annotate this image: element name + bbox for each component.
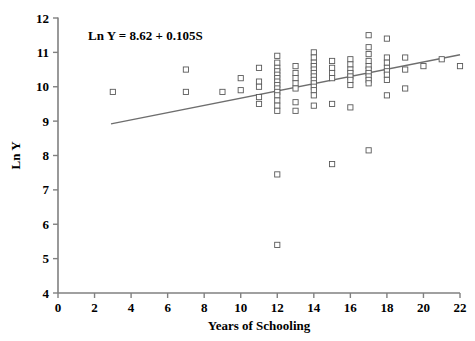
data-point-marker <box>366 81 371 86</box>
data-point-marker <box>256 79 261 84</box>
x-axis-title: Years of Schooling <box>208 318 311 333</box>
data-point-marker <box>384 77 389 82</box>
y-tick-label: 5 <box>43 251 50 266</box>
data-point-marker <box>384 60 389 65</box>
data-point-marker <box>348 62 353 67</box>
plot-canvas: 4567891011120246810121416182022Ln Y = 8.… <box>0 0 475 341</box>
data-point-marker <box>275 242 280 247</box>
data-point-marker <box>366 58 371 63</box>
data-point-marker <box>183 89 188 94</box>
data-point-marker <box>329 70 334 75</box>
x-tick-label: 0 <box>55 300 62 315</box>
data-point-marker <box>293 70 298 75</box>
data-point-marker <box>293 64 298 69</box>
y-axis-title: Ln Y <box>8 141 23 170</box>
data-point-marker <box>366 45 371 50</box>
data-point-marker <box>220 89 225 94</box>
x-axis-ticks: 0246810121416182022 <box>55 293 467 315</box>
data-point-marker <box>403 67 408 72</box>
data-point-marker <box>329 58 334 63</box>
data-point-marker <box>366 148 371 153</box>
data-point-marker <box>256 84 261 89</box>
data-point-marker <box>110 89 115 94</box>
y-tick-label: 6 <box>43 217 50 232</box>
x-tick-label: 12 <box>271 300 284 315</box>
data-point-marker <box>329 161 334 166</box>
y-tick-label: 4 <box>43 286 50 301</box>
data-point-marker <box>293 108 298 113</box>
regression-equation-annotation: Ln Y = 8.62 + 0.105S <box>88 28 203 43</box>
data-point-marker <box>275 103 280 108</box>
scatter-plot-figure: 4567891011120246810121416182022Ln Y = 8.… <box>0 0 475 341</box>
data-point-marker <box>311 55 316 60</box>
data-point-marker <box>384 55 389 60</box>
data-point-marker <box>238 88 243 93</box>
x-tick-label: 6 <box>164 300 171 315</box>
data-point-marker <box>384 36 389 41</box>
data-point-marker <box>183 67 188 72</box>
data-point-marker <box>275 93 280 98</box>
data-point-marker <box>293 100 298 105</box>
data-point-marker <box>384 93 389 98</box>
y-tick-label: 12 <box>36 11 49 26</box>
x-tick-label: 10 <box>234 300 247 315</box>
x-tick-label: 4 <box>128 300 135 315</box>
data-point-marker <box>311 93 316 98</box>
data-point-marker <box>275 172 280 177</box>
y-tick-label: 11 <box>37 45 49 60</box>
data-point-marker <box>348 105 353 110</box>
data-point-marker <box>256 65 261 70</box>
x-tick-label: 14 <box>307 300 321 315</box>
y-axis-ticks: 456789101112 <box>36 11 58 301</box>
data-point-marker <box>293 86 298 91</box>
data-point-marker <box>329 65 334 70</box>
x-tick-label: 20 <box>417 300 430 315</box>
data-point-marker <box>275 98 280 103</box>
data-point-marker <box>293 76 298 81</box>
data-point-marker <box>348 82 353 87</box>
x-tick-label: 16 <box>344 300 358 315</box>
x-tick-label: 8 <box>201 300 208 315</box>
y-tick-label: 7 <box>43 182 50 197</box>
data-point-marker <box>311 103 316 108</box>
data-point-marker <box>421 64 426 69</box>
y-tick-label: 9 <box>43 114 50 129</box>
data-point-marker <box>403 86 408 91</box>
data-point-marker <box>457 64 462 69</box>
data-point-marker <box>311 50 316 55</box>
x-tick-label: 22 <box>454 300 467 315</box>
axes <box>58 18 460 294</box>
data-point-marker <box>348 77 353 82</box>
data-point-marker <box>275 53 280 58</box>
data-point-marker <box>403 55 408 60</box>
x-tick-label: 2 <box>91 300 98 315</box>
data-point-marker <box>275 108 280 113</box>
data-point-marker <box>366 33 371 38</box>
data-point-marker <box>329 101 334 106</box>
data-point-marker <box>293 81 298 86</box>
data-point-marker <box>256 94 261 99</box>
data-point-marker <box>329 76 334 81</box>
data-point-marker <box>311 88 316 93</box>
data-point-marker <box>275 60 280 65</box>
data-point-marker <box>256 101 261 106</box>
data-point-marker <box>439 57 444 62</box>
data-point-marker <box>238 76 243 81</box>
y-tick-label: 10 <box>36 79 49 94</box>
data-point-marker <box>366 51 371 56</box>
x-tick-label: 18 <box>380 300 394 315</box>
data-point-marker <box>384 72 389 77</box>
y-tick-label: 8 <box>43 148 50 163</box>
data-point-marker <box>348 57 353 62</box>
